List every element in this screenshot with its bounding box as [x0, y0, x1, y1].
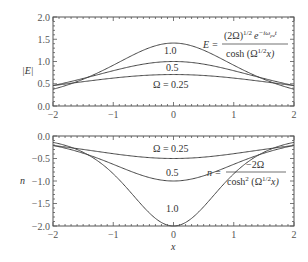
bottom-y-tick-label: −2.0	[32, 221, 50, 232]
bottom-formula: n = −2Ω cosh2 (Ω1/2x)	[207, 159, 286, 188]
bottom-x-axis-label: x	[170, 241, 176, 252]
top-x-tick-label: 1	[231, 109, 236, 120]
top-curve-label-0.25: Ω = 0.25	[153, 79, 189, 90]
bottom-x-tick-label: 0	[171, 229, 176, 240]
chart-figure: −2−10120.00.51.01.52.0 |E| 1.0 0.5 Ω = 0…	[0, 0, 308, 262]
top-formula-lhs: E =	[202, 39, 218, 50]
top-y-tick-label: 0.5	[38, 78, 51, 89]
bottom-x-tick-label: 1	[231, 229, 236, 240]
panel-density: −2−1012−2.0−1.5−1.0−0.50.0 n x Ω = 0.25 …	[20, 131, 297, 253]
top-curve-label-0.5: 0.5	[166, 62, 179, 73]
bottom-y-tick-label: 0.0	[38, 131, 51, 142]
bottom-formula-numerator: −2Ω	[246, 159, 264, 170]
top-y-tick-label: 1.0	[38, 56, 51, 67]
bottom-curve-label-1.0: 1.0	[166, 203, 179, 214]
bottom-y-axis-label: n	[20, 175, 25, 186]
bottom-curve-label-0.5: 0.5	[166, 167, 179, 178]
top-x-tick-label: 2	[292, 109, 297, 120]
top-y-tick-label: 0.0	[38, 101, 51, 112]
top-y-tick-label: 1.5	[38, 34, 51, 45]
bottom-x-tick-label: −1	[108, 229, 119, 240]
top-x-tick-label: 0	[171, 109, 176, 120]
bottom-formula-denominator: cosh2 (Ω1/2x)	[227, 175, 280, 188]
bottom-formula-lhs: n =	[207, 167, 221, 178]
top-formula-numerator: (2Ω)1/2e−iωpet	[224, 29, 278, 42]
bottom-y-tick-label: −0.5	[32, 153, 50, 164]
top-y-axis-label: |E|	[22, 65, 34, 76]
top-curve-label-1.0: 1.0	[164, 45, 177, 56]
bottom-curve-label-0.25: Ω = 0.25	[153, 143, 189, 154]
bottom-y-tick-label: −1.5	[32, 198, 50, 209]
top-formula-denominator: cosh (Ω1/2x)	[226, 47, 275, 60]
panel-field-amplitude: −2−10120.00.51.01.52.0 |E| 1.0 0.5 Ω = 0…	[22, 12, 297, 121]
bottom-x-tick-label: 2	[292, 229, 297, 240]
bottom-y-tick-label: −1.0	[32, 176, 50, 187]
top-y-tick-label: 2.0	[38, 12, 51, 23]
top-x-tick-label: −1	[108, 109, 119, 120]
